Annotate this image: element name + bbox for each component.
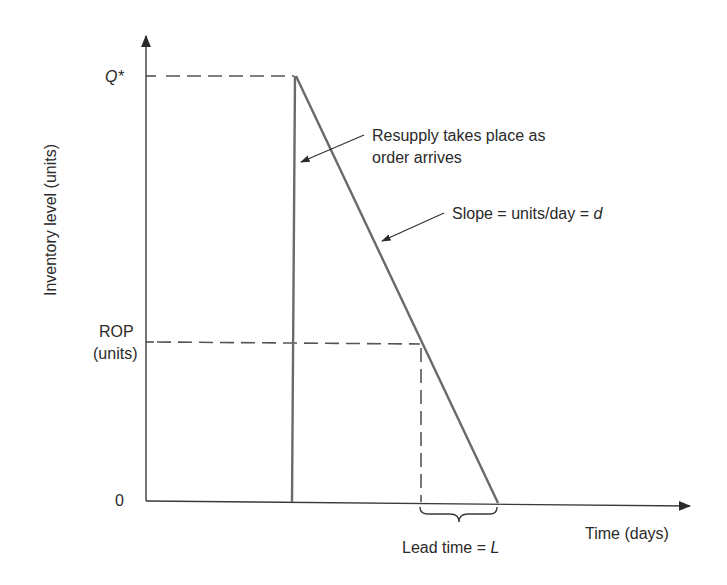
lead-time-brace: [420, 507, 497, 522]
y-axis-title: Inventory level (units): [42, 144, 59, 296]
resupply-annotation-line2: order arrives: [372, 149, 462, 166]
resupply-line: [292, 76, 295, 502]
lead-time-annotation: Lead time = L: [402, 539, 499, 556]
slope-annotation: Slope = units/day = d: [452, 205, 603, 222]
lead-time-prefix: Lead time =: [402, 539, 491, 556]
slope-annotation-prefix: Slope = units/day =: [452, 205, 593, 222]
q-star-label: Q*: [105, 68, 124, 85]
resupply-annotation-line1: Resupply takes place as: [372, 127, 545, 144]
resupply-pointer-arrow: [301, 135, 364, 162]
reorder-point-diagram: Q* ROP (units) 0 Inventory level (units)…: [0, 0, 727, 585]
x-axis: [146, 501, 690, 506]
x-axis-title: Time (days): [585, 525, 669, 542]
lead-time-variable: L: [491, 539, 500, 556]
slope-variable: d: [593, 205, 603, 222]
rop-label: ROP: [99, 323, 134, 340]
rop-units-label: (units): [93, 345, 137, 362]
rop-guide-horizontal: [157, 342, 420, 344]
zero-label: 0: [115, 492, 124, 509]
slope-pointer-arrow: [382, 213, 444, 241]
